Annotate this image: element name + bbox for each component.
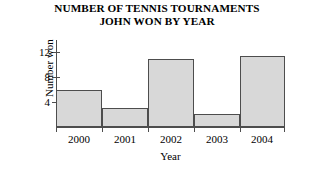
bar-2004 xyxy=(240,56,285,127)
x-tick-label-2002: 2002 xyxy=(148,133,194,145)
bar-2002 xyxy=(148,59,194,127)
bar-2003 xyxy=(194,114,240,127)
x-tick-label-2001: 2001 xyxy=(102,133,148,145)
x-tick-mark-5 xyxy=(284,127,285,132)
x-tick-mark-0 xyxy=(56,127,57,132)
x-tick-label-2000: 2000 xyxy=(56,133,102,145)
plot-area: 4 8 12 Number won 2000 2001 2002 2003 20… xyxy=(56,40,285,127)
bar-chart-figure: NUMBER OF TENNIS TOURNAMENTS JOHN WON BY… xyxy=(0,0,314,181)
chart-title-line-2: JOHN WON BY YEAR xyxy=(0,15,314,28)
y-axis-title: Number won xyxy=(43,33,55,103)
x-tick-label-2003: 2003 xyxy=(194,133,240,145)
chart-title-line-1: NUMBER OF TENNIS TOURNAMENTS xyxy=(0,2,314,15)
x-tick-label-2004: 2004 xyxy=(239,133,285,145)
bars-group xyxy=(56,40,285,128)
x-tick-mark-4 xyxy=(240,127,241,132)
bar-2001 xyxy=(102,108,148,127)
x-axis-title: Year xyxy=(56,150,285,162)
chart-title: NUMBER OF TENNIS TOURNAMENTS JOHN WON BY… xyxy=(0,2,314,28)
x-tick-mark-1 xyxy=(102,127,103,132)
x-tick-mark-3 xyxy=(194,127,195,132)
x-tick-mark-2 xyxy=(148,127,149,132)
bar-2000 xyxy=(56,90,102,127)
